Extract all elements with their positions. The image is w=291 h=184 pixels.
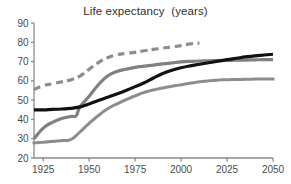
line-chart-plot: 2030405060708090192519501975200020252050 [0,0,291,184]
x-tick-label: 2000 [170,164,193,175]
series-line-dashed-upper [34,43,199,89]
x-tick-label: 1950 [78,164,101,175]
series-line-dotted-lower [34,79,273,143]
y-tick-label: 30 [17,133,29,144]
chart-container: Life expectancy (years) 2030405060708090… [0,0,291,184]
y-tick-label: 40 [17,114,29,125]
y-tick-label: 90 [17,18,29,29]
y-tick-label: 80 [17,37,29,48]
series-group [34,43,273,143]
tick-labels-group: 2030405060708090192519501975200020252050 [17,18,284,175]
x-tick-label: 2050 [262,164,285,175]
series-line-solid-black [34,54,273,110]
y-tick-label: 60 [17,75,29,86]
series-line-solid-gray [34,60,273,139]
x-tick-label: 2025 [216,164,239,175]
x-tick-label: 1975 [124,164,147,175]
y-tick-label: 50 [17,95,29,106]
y-tick-label: 20 [17,153,29,164]
x-tick-label: 1925 [32,164,55,175]
y-tick-label: 70 [17,56,29,67]
